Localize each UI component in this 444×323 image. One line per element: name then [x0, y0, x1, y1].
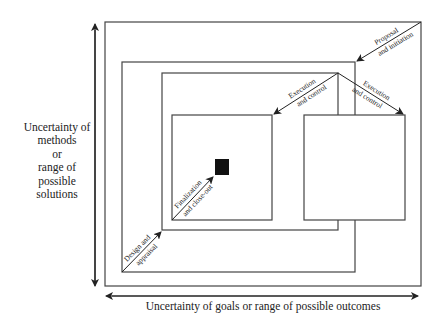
y-label-line: range of [38, 161, 76, 174]
y-axis-label: Uncertainty of methods or range of possi… [24, 121, 91, 200]
y-label-line: or [52, 148, 62, 160]
y-label-line: solutions [36, 188, 78, 200]
y-label-line: possible [38, 175, 76, 188]
y-label-line: methods [38, 134, 77, 146]
y-label-line: Uncertainty of [24, 121, 91, 134]
project-phases-diagram: Uncertainty of methods or range of possi… [0, 0, 444, 323]
execution-left-label: Execution and control [287, 73, 328, 109]
final-outcome-square [215, 159, 229, 175]
box-level-4-right [304, 115, 405, 220]
x-axis-label: Uncertainty of goals or range of possibl… [146, 300, 381, 313]
